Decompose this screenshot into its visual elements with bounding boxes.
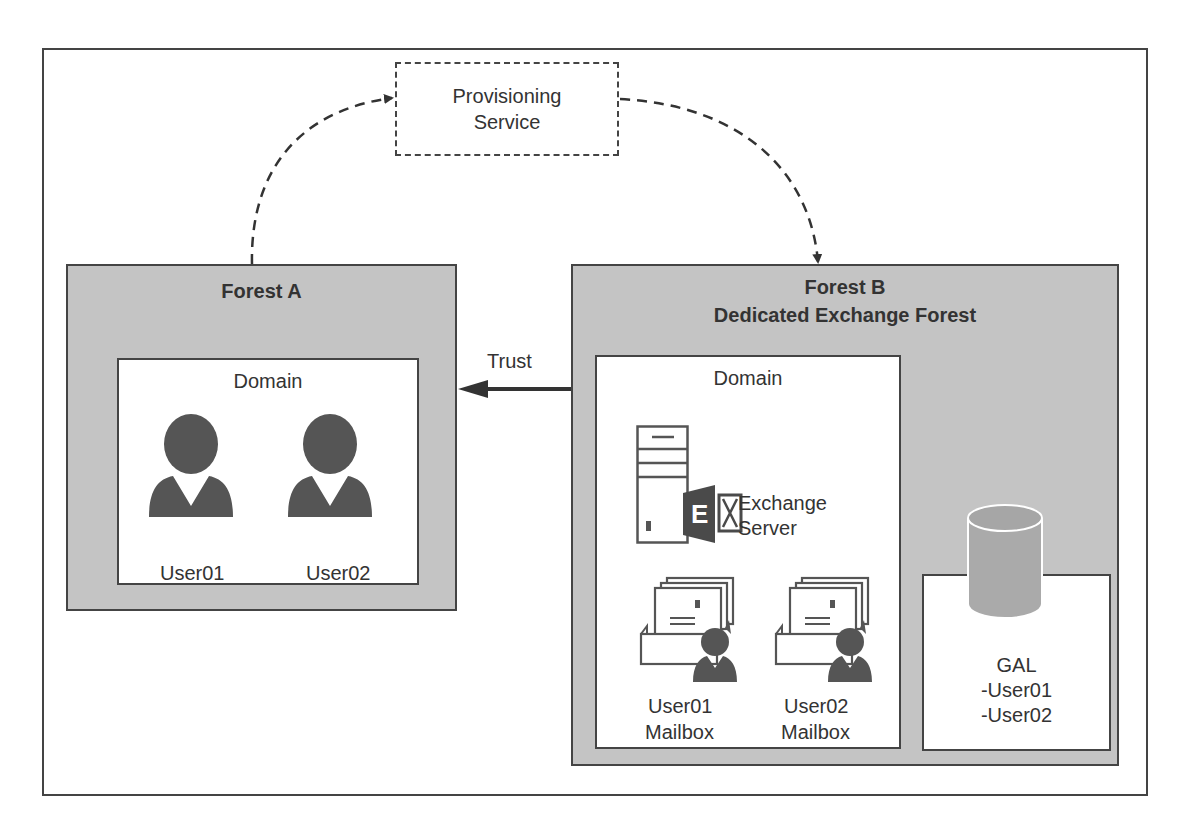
forest-b-domain-box: Domain [595, 355, 901, 749]
forest-b-domain-label: Domain [597, 365, 899, 391]
forest-b-subtitle: Dedicated Exchange Forest [573, 302, 1117, 328]
mailbox-user-icon [770, 578, 880, 688]
forest-a-domain-label: Domain [119, 368, 417, 394]
forest-b-title: Forest B [573, 274, 1117, 300]
mailbox-user02-label-line2: Mailbox [781, 719, 850, 745]
exchange-server-label-line2: Server [738, 515, 797, 541]
forest-a-user02-label: User02 [306, 560, 370, 586]
mailbox-user01-label-line2: Mailbox [645, 719, 714, 745]
trust-arrow [456, 380, 576, 400]
svg-text:E: E [691, 499, 708, 529]
user-icon [143, 412, 239, 532]
provisioning-service-label-line1: Provisioning [453, 83, 562, 109]
mailbox-user02-label-line1: User02 [784, 693, 848, 719]
exchange-server-label-line1: Exchange [738, 490, 827, 516]
provisioning-service-label-line2: Service [474, 109, 541, 135]
forest-a-user01-label: User01 [160, 560, 224, 586]
trust-label: Trust [487, 348, 532, 374]
user-icon [282, 412, 378, 532]
gal-title: GAL [924, 652, 1109, 678]
mailbox-user-icon [635, 578, 745, 688]
gal-entry-user02: -User02 [924, 702, 1109, 728]
mailbox-user01-label-line1: User01 [648, 693, 712, 719]
database-cylinder-icon [966, 504, 1046, 624]
gal-entry-user01: -User01 [924, 677, 1109, 703]
provisioning-service-box: Provisioning Service [395, 62, 619, 156]
forest-a-title: Forest A [68, 278, 455, 304]
